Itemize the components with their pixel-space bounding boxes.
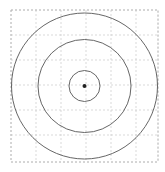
center-point-layer	[83, 84, 87, 88]
center-dot	[83, 84, 87, 88]
figure-container	[0, 0, 165, 172]
concentric-circles-figure	[0, 0, 165, 172]
